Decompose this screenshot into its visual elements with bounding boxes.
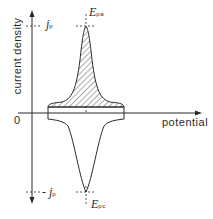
x-axis-label: potential	[162, 116, 208, 128]
voltammogram-diagram	[0, 0, 213, 219]
neg-jp-label: - jp	[42, 185, 56, 200]
origin-label: 0	[14, 114, 20, 126]
y-axis-label: current density	[11, 1, 23, 111]
cathodic-peak-curve	[48, 119, 124, 192]
jp-label: jp	[46, 17, 53, 32]
x-axis	[18, 111, 202, 116]
y-axis	[30, 10, 35, 204]
anodic-peak-area	[48, 26, 124, 107]
epa-label: Epa	[89, 5, 104, 20]
epc-label: Epc	[91, 197, 106, 212]
x-axis-arrow-icon	[195, 111, 202, 116]
y-axis-down-arrow-icon	[30, 197, 35, 204]
y-axis-up-arrow-icon	[30, 10, 35, 17]
